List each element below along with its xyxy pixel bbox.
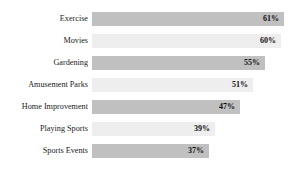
bar-fill xyxy=(92,78,253,92)
bar-track: 51% xyxy=(92,78,253,92)
bar-value-label: 47% xyxy=(219,100,235,114)
bar-track: 61% xyxy=(92,12,284,26)
bar-track: 37% xyxy=(92,144,209,158)
bar-track: 55% xyxy=(92,56,265,70)
category-label: Sports Events xyxy=(0,144,88,158)
bar-value-label: 55% xyxy=(244,56,260,70)
bar-row: Exercise 61% xyxy=(0,12,301,26)
bar-row: Amusement Parks 51% xyxy=(0,78,301,92)
bar-fill xyxy=(92,12,284,26)
bar-row: Sports Events 37% xyxy=(0,144,301,158)
bar-row: Movies 60% xyxy=(0,34,301,48)
bar-row: Home Improvement 47% xyxy=(0,100,301,114)
category-label: Exercise xyxy=(0,12,88,26)
bar-fill xyxy=(92,56,265,70)
category-label: Movies xyxy=(0,34,88,48)
bar-value-label: 61% xyxy=(263,12,279,26)
category-label: Home Improvement xyxy=(0,100,88,114)
bar-value-label: 37% xyxy=(188,144,204,158)
chart-title xyxy=(0,0,301,1)
bar-row: Gardening 55% xyxy=(0,56,301,70)
bar-fill xyxy=(92,34,281,48)
plot-area: Exercise 61% Movies 60% Gardening 55% Am… xyxy=(0,12,301,172)
bar-track: 47% xyxy=(92,100,240,114)
bar-track: 39% xyxy=(92,122,215,136)
bar-row: Playing Sports 39% xyxy=(0,122,301,136)
bar-value-label: 60% xyxy=(260,34,276,48)
bar-value-label: 51% xyxy=(232,78,248,92)
category-label: Playing Sports xyxy=(0,122,88,136)
category-label: Gardening xyxy=(0,56,88,70)
bar-track: 60% xyxy=(92,34,281,48)
bar-fill xyxy=(92,100,240,114)
category-label: Amusement Parks xyxy=(0,78,88,92)
bar-chart: Exercise 61% Movies 60% Gardening 55% Am… xyxy=(0,0,301,175)
bar-value-label: 39% xyxy=(194,122,210,136)
